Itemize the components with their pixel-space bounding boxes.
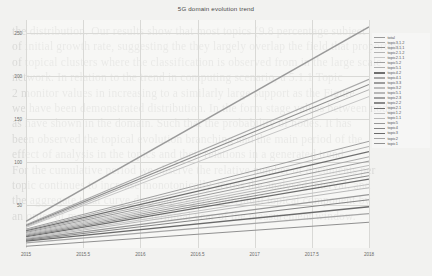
series-line bbox=[26, 85, 369, 226]
legend-swatch-icon bbox=[374, 108, 385, 109]
gridline-vertical bbox=[369, 20, 370, 248]
legend-label: topic3.1.1 bbox=[388, 46, 405, 50]
series-line bbox=[26, 79, 369, 224]
series-lines bbox=[26, 20, 369, 248]
x-tick-label: 2018 bbox=[364, 252, 374, 257]
legend-swatch-icon bbox=[374, 77, 385, 78]
series-line bbox=[26, 165, 369, 233]
series-line bbox=[26, 161, 369, 232]
legend-label: topic2 bbox=[388, 137, 398, 141]
x-tick-label: 2017.5 bbox=[305, 252, 319, 257]
legend-swatch-icon bbox=[374, 97, 385, 98]
chart-legend: totaltopic3.1.2topic3.1.1topic2.1.2topic… bbox=[372, 33, 430, 148]
chart-page: 5G domain evolution trend 50100150200250… bbox=[0, 0, 432, 276]
y-tick-label: 150 bbox=[14, 116, 22, 121]
legend-item[interactable]: topic1 bbox=[374, 141, 429, 146]
legend-label: topic1 bbox=[388, 142, 398, 146]
legend-swatch-icon bbox=[374, 37, 385, 39]
x-tick-label: 2015.5 bbox=[76, 252, 90, 257]
y-tick-label: 250 bbox=[14, 30, 22, 35]
legend-swatch-icon bbox=[374, 113, 385, 114]
legend-label: topic3.1.2 bbox=[388, 41, 405, 45]
x-tick-label: 2015 bbox=[21, 252, 31, 257]
legend-swatch-icon bbox=[374, 123, 385, 124]
y-tick-label: 100 bbox=[14, 159, 22, 164]
x-tick-label: 2016.5 bbox=[190, 252, 204, 257]
y-tick-label: 50 bbox=[17, 202, 22, 207]
legend-swatch-icon bbox=[374, 42, 385, 43]
y-tick-label: 200 bbox=[14, 73, 22, 78]
legend-swatch-icon bbox=[374, 52, 385, 53]
legend-label: total bbox=[388, 36, 395, 40]
legend-swatch-icon bbox=[374, 92, 385, 93]
legend-swatch-icon bbox=[374, 102, 385, 103]
legend-swatch-icon bbox=[374, 47, 385, 48]
legend-swatch-icon bbox=[374, 87, 385, 88]
series-svg bbox=[26, 20, 369, 248]
legend-swatch-icon bbox=[374, 133, 385, 134]
chart-title: 5G domain evolution trend bbox=[0, 5, 432, 12]
x-tick-label: 2016 bbox=[135, 252, 145, 257]
plot-area: 50100150200250 20152015.520162016.520172… bbox=[26, 20, 369, 248]
legend-swatch-icon bbox=[374, 143, 385, 144]
series-line bbox=[26, 207, 369, 241]
legend-swatch-icon bbox=[374, 128, 385, 129]
legend-swatch-icon bbox=[374, 72, 385, 73]
series-line bbox=[26, 188, 369, 239]
series-line bbox=[26, 152, 369, 231]
legend-swatch-icon bbox=[374, 67, 385, 68]
legend-swatch-icon bbox=[374, 118, 385, 119]
x-tick-label: 2017 bbox=[250, 252, 260, 257]
legend-label: topic3 bbox=[388, 131, 398, 135]
legend-swatch-icon bbox=[374, 82, 385, 83]
legend-swatch-icon bbox=[374, 57, 385, 58]
legend-swatch-icon bbox=[374, 138, 385, 139]
legend-swatch-icon bbox=[374, 62, 385, 63]
